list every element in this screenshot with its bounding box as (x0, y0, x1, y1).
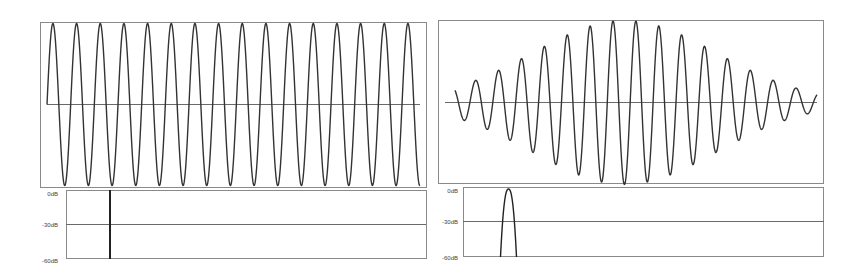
right-spectrum-label-60db: -60dB (442, 255, 458, 261)
right-time-plot (439, 21, 824, 185)
right-spectrum-label-0db: 0dB (447, 188, 458, 194)
left-spectrum-label-0db: 0dB (47, 191, 58, 197)
left-spectrum-plot: 0dB -30dB -60dB (42, 190, 427, 264)
left-time-plot (41, 23, 427, 188)
right-spectrum-label-30db: -30dB (442, 219, 458, 225)
left-spectrum-label-30db: -30dB (42, 222, 58, 228)
left-spectrum-label-60db: -60dB (42, 258, 58, 264)
right-spectrum-lobe (501, 189, 517, 257)
right-spectrum-plot: 0dB -30dB -60dB (442, 188, 824, 262)
figure: 0dB -30dB -60dB 0dB -30dB -60dB (0, 0, 852, 275)
